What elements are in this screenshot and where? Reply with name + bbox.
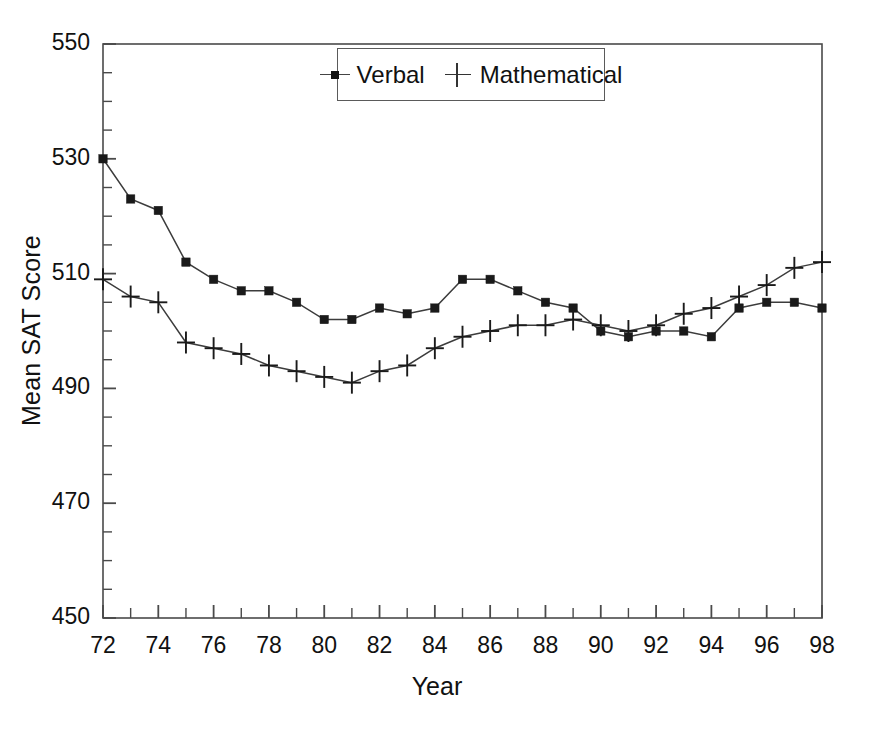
plus-marker-icon bbox=[443, 63, 473, 87]
x-tick-label-92: 92 bbox=[626, 632, 686, 659]
sat-score-line-chart: 450470490510530550 727476788082848688909… bbox=[0, 0, 874, 736]
data-point-marker bbox=[790, 298, 798, 306]
x-tick-label-84: 84 bbox=[405, 632, 465, 659]
data-series-group bbox=[94, 155, 831, 394]
x-tick-label-90: 90 bbox=[571, 632, 631, 659]
data-point-marker bbox=[458, 275, 466, 283]
series-mathematical bbox=[94, 251, 831, 394]
data-point-marker bbox=[762, 298, 770, 306]
x-tick-label-82: 82 bbox=[350, 632, 410, 659]
data-point-marker bbox=[99, 155, 107, 163]
data-point-marker bbox=[403, 310, 411, 318]
data-point-marker bbox=[348, 315, 356, 323]
data-point-marker bbox=[292, 298, 300, 306]
data-point-marker bbox=[431, 304, 439, 312]
x-tick-label-74: 74 bbox=[128, 632, 188, 659]
data-point-marker bbox=[154, 206, 162, 214]
square-marker-icon bbox=[320, 63, 350, 87]
data-point-marker bbox=[375, 304, 383, 312]
data-point-marker bbox=[818, 304, 826, 312]
legend-label-mathematical: Mathematical bbox=[480, 61, 623, 89]
data-point-marker bbox=[541, 298, 549, 306]
data-point-marker bbox=[237, 287, 245, 295]
x-tick-label-72: 72 bbox=[73, 632, 133, 659]
legend-entry-verbal: Verbal bbox=[320, 61, 425, 89]
chart-plot-area bbox=[0, 0, 874, 736]
data-point-marker bbox=[126, 195, 134, 203]
data-point-marker bbox=[680, 327, 688, 335]
data-point-marker bbox=[486, 275, 494, 283]
data-point-marker bbox=[182, 258, 190, 266]
y-axis-title: Mean SAT Score bbox=[8, 0, 54, 660]
y-axis-title-text: Mean SAT Score bbox=[17, 235, 46, 426]
x-tick-label-94: 94 bbox=[681, 632, 741, 659]
x-tick-label-80: 80 bbox=[294, 632, 354, 659]
data-point-marker bbox=[265, 287, 273, 295]
series-verbal bbox=[99, 155, 826, 341]
x-axis-ticks bbox=[103, 605, 822, 618]
x-tick-label-86: 86 bbox=[460, 632, 520, 659]
legend-entry-mathematical: Mathematical bbox=[443, 61, 623, 89]
x-axis-title: Year bbox=[0, 672, 874, 701]
x-tick-label-88: 88 bbox=[515, 632, 575, 659]
x-tick-label-98: 98 bbox=[792, 632, 852, 659]
x-tick-label-76: 76 bbox=[184, 632, 244, 659]
x-tick-label-96: 96 bbox=[737, 632, 797, 659]
data-point-marker bbox=[514, 287, 522, 295]
data-point-marker bbox=[320, 315, 328, 323]
y-axis-minor-ticks bbox=[103, 44, 116, 618]
x-tick-label-78: 78 bbox=[239, 632, 299, 659]
legend-label-verbal: Verbal bbox=[357, 61, 425, 89]
data-point-marker bbox=[707, 333, 715, 341]
chart-legend: Verbal Mathematical bbox=[337, 48, 605, 101]
data-point-marker bbox=[209, 275, 217, 283]
